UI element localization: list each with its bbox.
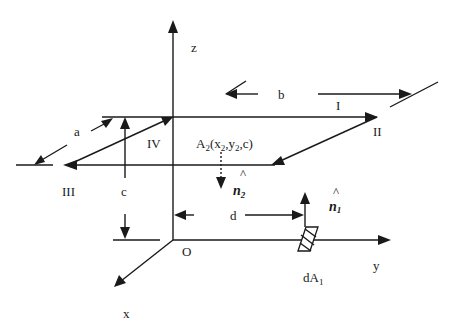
plate-edge-right — [271, 117, 377, 165]
normal-n2-label: n2 — [233, 183, 246, 200]
normal-n2-hat: ^ — [240, 166, 246, 181]
dimension-d — [174, 210, 304, 220]
plate-label: A2(x2,y2,c) — [196, 136, 253, 153]
normal-n1-label: n1 — [329, 199, 341, 215]
dimension-b-label: b — [278, 87, 285, 102]
edge-label-III: III — [62, 184, 75, 199]
dimension-c-label: c — [121, 184, 127, 199]
view-factor-diagram: z y x O I II III IV a — [0, 0, 451, 330]
z-axis-label: z — [191, 40, 197, 55]
z-axis — [168, 20, 178, 240]
plate-edge-top — [102, 112, 378, 122]
edge-label-I: I — [336, 98, 340, 113]
normal-n1-arrow — [300, 192, 310, 227]
edge-label-IV: IV — [147, 136, 161, 151]
normal-n1-hat: ^ — [333, 184, 339, 199]
normal-n2-arrow — [216, 152, 226, 189]
dimension-a-label: a — [74, 124, 80, 139]
dimension-d-label: d — [230, 208, 237, 223]
y-axis-label: y — [373, 258, 380, 273]
x-axis-label: x — [123, 306, 130, 321]
origin-label: O — [182, 244, 191, 259]
dimension-b — [225, 81, 438, 107]
edge-label-II: II — [373, 124, 382, 139]
element-dA1 — [298, 227, 318, 251]
y-axis — [173, 235, 391, 245]
dimension-a — [16, 118, 113, 165]
element-dA1-label: dA1 — [303, 270, 323, 287]
x-axis — [114, 240, 173, 287]
